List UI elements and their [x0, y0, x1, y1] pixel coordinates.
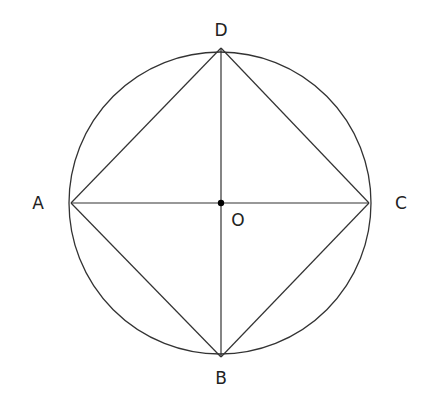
- label-A: A: [32, 193, 44, 213]
- geometry-diagram: D A C O B: [0, 0, 424, 400]
- label-D: D: [214, 20, 227, 40]
- label-C: C: [395, 193, 407, 213]
- label-O: O: [231, 210, 244, 230]
- center-point-O: [218, 200, 224, 206]
- label-B: B: [215, 368, 227, 388]
